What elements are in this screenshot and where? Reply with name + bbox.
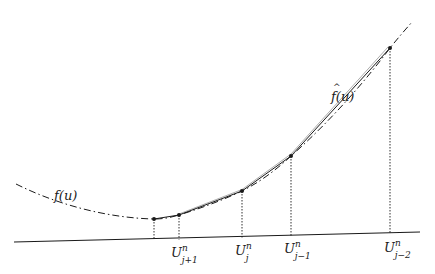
label-sup: n bbox=[182, 243, 188, 253]
f-label: f(u) bbox=[54, 189, 77, 202]
diagram-svg bbox=[0, 0, 435, 274]
label-u-j-minus-1: Unj−1 bbox=[284, 241, 311, 259]
label-u-j-plus-1: Unj+1 bbox=[171, 245, 198, 263]
label-base: U bbox=[384, 240, 395, 255]
f-label-text: f(u) bbox=[54, 188, 77, 203]
label-sub: j bbox=[246, 253, 249, 263]
point-p0 bbox=[152, 217, 156, 221]
label-sup: n bbox=[395, 238, 401, 248]
label-sup: n bbox=[295, 239, 301, 249]
point-p3 bbox=[289, 154, 293, 158]
label-u-j: Unj bbox=[235, 243, 249, 261]
point-p1 bbox=[177, 213, 181, 217]
label-sup: n bbox=[246, 241, 252, 251]
label-sub: j+1 bbox=[182, 255, 198, 265]
point-p4 bbox=[388, 46, 392, 50]
diagram-canvas: f(u) f(u) Unj+1 Unj Unj−1 Unj−2 bbox=[0, 0, 435, 274]
f-hat-symbol: f bbox=[331, 90, 336, 103]
f-hat-curve bbox=[154, 48, 390, 219]
label-base: U bbox=[235, 243, 246, 258]
label-base: U bbox=[284, 241, 295, 256]
label-sub: j−2 bbox=[395, 250, 411, 260]
x-axis bbox=[14, 232, 420, 242]
f-hat-label: f(u) bbox=[331, 90, 354, 103]
label-base: U bbox=[171, 245, 182, 260]
point-p2 bbox=[240, 189, 244, 193]
label-u-j-minus-2: Unj−2 bbox=[384, 240, 411, 258]
f-hat-curve-shadow bbox=[179, 47, 388, 214]
label-sub: j−1 bbox=[295, 251, 311, 261]
